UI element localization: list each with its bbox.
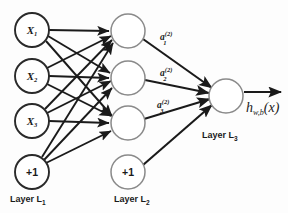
node-hidden-a3 <box>111 106 145 140</box>
layer-2-caption: Layer L2 <box>114 194 150 206</box>
activation-a2-label: a(2)2 <box>160 66 172 82</box>
edge-x2-h2 <box>49 76 109 78</box>
edge-x1-h1 <box>49 30 109 31</box>
network-svg: X1 X2 X3 +1 +1 a(2)1 a(2)2 a(2)3 hw,b(x) <box>0 0 288 213</box>
layer-3-nodes <box>209 79 243 113</box>
edges-hidden-to-output <box>143 39 212 165</box>
node-output <box>209 79 243 113</box>
edges-input-to-hidden <box>42 30 113 163</box>
layer-2-nodes: +1 <box>111 14 145 189</box>
layer-3-caption: Layer L3 <box>202 130 238 142</box>
layer-1-nodes: X1 X2 X3 +1 <box>15 13 49 189</box>
activation-a1-label: a(2)1 <box>160 30 172 46</box>
neural-network-diagram: X1 X2 X3 +1 +1 a(2)1 a(2)2 a(2)3 hw,b(x) <box>0 0 288 213</box>
node-hidden-bias-label: +1 <box>122 166 134 178</box>
node-input-bias-label: +1 <box>26 166 38 178</box>
node-hidden-a2 <box>111 61 145 95</box>
output-expression-label: hw,b(x) <box>246 100 280 117</box>
activation-labels: a(2)1 a(2)2 a(2)3 <box>157 30 172 114</box>
edge-h2-out <box>145 80 209 93</box>
node-hidden-a1 <box>111 14 145 48</box>
layer-1-caption: Layer L1 <box>10 194 46 206</box>
